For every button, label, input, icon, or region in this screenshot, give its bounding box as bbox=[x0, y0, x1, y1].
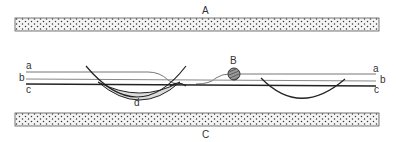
diagram: A B a b c a b c d C bbox=[0, 0, 396, 142]
label-c-right: c bbox=[374, 84, 379, 95]
label-c: C bbox=[202, 129, 209, 140]
label-b-right: b bbox=[380, 74, 386, 85]
line-a-right bbox=[196, 74, 376, 84]
line-b bbox=[26, 79, 376, 81]
label-b: B bbox=[230, 55, 237, 66]
bottom-stippled-bar bbox=[15, 113, 379, 126]
line-a bbox=[26, 72, 180, 84]
label-c-left: c bbox=[26, 84, 31, 95]
label-a-left: a bbox=[26, 60, 32, 71]
label-d: d bbox=[134, 97, 140, 108]
top-stippled-bar bbox=[15, 18, 379, 31]
label-a: A bbox=[202, 5, 209, 16]
left-arc bbox=[86, 66, 186, 97]
label-b-left: b bbox=[19, 72, 25, 83]
line-c bbox=[26, 84, 376, 86]
label-a-right: a bbox=[373, 63, 379, 74]
